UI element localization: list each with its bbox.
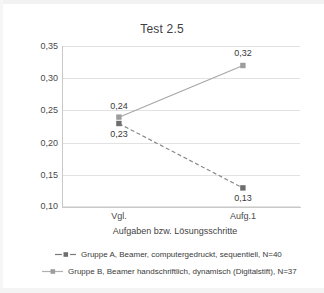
chart-legend: Gruppe A, Beamer, computergedruckt, sequ… (0, 246, 324, 280)
series-a-marker-aufg1 (240, 185, 245, 190)
legend-marker-dashed-icon (55, 250, 81, 259)
series-b-marker-vgl (116, 114, 121, 119)
line-chart: Test 2.5 0,35 0,30 0,25 0,20 0,15 0,10 V… (0, 0, 324, 293)
data-label-b-aufg1: 0,32 (234, 48, 252, 58)
series-a-line (119, 124, 243, 188)
legend-label-gruppe-a: Gruppe A, Beamer, computergedruckt, sequ… (81, 250, 282, 259)
legend-marker-solid-icon (42, 267, 68, 276)
series-a-marker-vgl (116, 121, 121, 126)
data-label-b-vgl: 0,24 (110, 101, 128, 111)
series-b-line (119, 66, 243, 118)
legend-label-gruppe-b: Gruppe B, Beamer handschriftlich, dynami… (68, 267, 297, 276)
series-b-marker-aufg1 (240, 63, 245, 68)
data-label-a-aufg1: 0,13 (234, 193, 252, 203)
legend-item-gruppe-a[interactable]: Gruppe A, Beamer, computergedruckt, sequ… (0, 246, 324, 263)
legend-item-gruppe-b[interactable]: Gruppe B, Beamer handschriftlich, dynami… (0, 263, 324, 280)
data-label-a-vgl: 0,23 (110, 129, 128, 139)
